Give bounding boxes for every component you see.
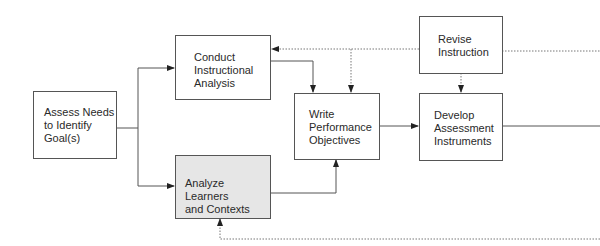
edge-conduct-to-write: [270, 61, 313, 92]
node-revise-instruction: Revise Instruction: [419, 16, 503, 74]
node-label: Assess Needs to Identify Goal(s): [44, 106, 114, 145]
node-write-performance-objectives: Write Performance Objectives: [294, 93, 380, 160]
edge-feedback-analyze: [220, 219, 600, 239]
node-assess-needs: Assess Needs to Identify Goal(s): [33, 91, 117, 159]
node-label: Develop Assessment Instruments: [434, 109, 494, 148]
node-analyze-learners: Analyze Learners and Contexts: [175, 155, 271, 219]
node-label: Revise Instruction: [438, 33, 489, 59]
node-conduct-instructional-analysis: Conduct Instructional Analysis: [175, 35, 271, 100]
instructional-design-flowchart: Assess Needs to Identify Goal(s) Conduct…: [0, 0, 600, 246]
node-label: Conduct Instructional Analysis: [194, 51, 253, 90]
edge-analyze-to-write: [270, 160, 336, 193]
node-label: Write Performance Objectives: [309, 108, 372, 147]
node-develop-assessment-instruments: Develop Assessment Instruments: [419, 93, 503, 161]
node-label: Analyze Learners and Contexts: [185, 177, 270, 216]
